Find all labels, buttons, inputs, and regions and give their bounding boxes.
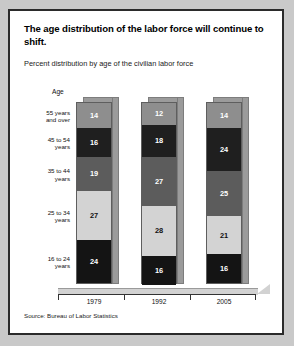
bar-column[interactable]: 1218272816 <box>141 97 184 284</box>
x-axis-tick <box>255 294 256 300</box>
bar-segment[interactable]: 16 <box>77 128 111 157</box>
bar-segment[interactable]: 21 <box>207 216 241 254</box>
title-block: The age distribution of the labor force … <box>24 23 266 69</box>
bar-stack: 1416192724 <box>76 102 112 284</box>
chart-subtitle: Percent distribution by age of the civil… <box>24 59 266 69</box>
age-category-label: 45 to 54years <box>18 136 70 151</box>
bar-segment[interactable]: 27 <box>77 191 111 240</box>
bar-segment[interactable]: 18 <box>142 125 176 157</box>
bar-segment-value: 16 <box>220 265 228 272</box>
age-category-label-line1: 45 to 54 <box>18 136 70 144</box>
age-category-label: 25 to 34years <box>18 209 70 224</box>
bar-3d-side-face <box>112 97 119 284</box>
bar-segment-value: 28 <box>155 227 163 234</box>
bar-segment-value: 24 <box>220 146 228 153</box>
age-category-label-line2: years <box>18 262 70 270</box>
bar-segment-value: 24 <box>90 258 98 265</box>
age-category-label-line2: years <box>18 216 70 224</box>
bar-segment[interactable]: 16 <box>207 254 241 283</box>
bar-segment-value: 12 <box>155 110 163 117</box>
x-axis-tick <box>124 294 125 300</box>
x-axis-line <box>58 294 256 295</box>
bar-segment[interactable]: 27 <box>142 157 176 206</box>
bar-segment[interactable]: 28 <box>142 206 176 256</box>
age-category-label-line1: 35 to 44 <box>18 167 70 175</box>
bar-segment[interactable]: 14 <box>77 103 111 128</box>
x-axis-tick-label: 1979 <box>64 298 124 305</box>
age-category-label: 55 yearsand over <box>18 109 70 124</box>
age-category-label-line1: 16 to 24 <box>18 255 70 263</box>
x-axis-tick <box>190 294 191 300</box>
bar-segment-value: 19 <box>90 170 98 177</box>
bar-segment-value: 16 <box>90 139 98 146</box>
bar-segment[interactable]: 25 <box>207 171 241 216</box>
bar-segment-value: 18 <box>155 137 163 144</box>
figure-frame: The age distribution of the labor force … <box>8 9 284 335</box>
bar-stack: 1218272816 <box>141 102 177 284</box>
bar-column[interactable]: 1424252116 <box>206 97 249 284</box>
age-category-label: 16 to 24years <box>18 255 70 270</box>
bar-stack: 1424252116 <box>206 102 242 284</box>
bar-segment-value: 25 <box>220 190 228 197</box>
chart-floor-wedge <box>257 284 270 294</box>
bar-column[interactable]: 1416192724 <box>76 97 119 284</box>
source-note: Source: Bureau of Labor Statistics <box>24 312 118 319</box>
x-axis-tick-label: 2005 <box>194 298 254 305</box>
page-title: The age distribution of the labor force … <box>24 23 266 48</box>
bar-segment[interactable]: 14 <box>207 103 241 128</box>
bar-segment[interactable]: 24 <box>77 240 111 283</box>
bar-segment-value: 27 <box>155 178 163 185</box>
age-axis-header: Age <box>52 88 64 95</box>
bar-segment[interactable]: 16 <box>142 256 176 285</box>
age-category-label-line2: and over <box>18 116 70 124</box>
age-category-label-line1: 55 years <box>18 109 70 117</box>
bar-segment-value: 14 <box>90 112 98 119</box>
x-axis-tick <box>58 294 59 300</box>
bar-segment[interactable]: 19 <box>77 157 111 191</box>
bar-segment-value: 16 <box>155 267 163 274</box>
bar-segment-value: 14 <box>220 112 228 119</box>
bar-segment[interactable]: 12 <box>142 103 176 125</box>
chart-plot-area: Age 55 yearsand over45 to 54years35 to 4… <box>10 85 282 313</box>
bar-segment-value: 21 <box>220 232 228 239</box>
bar-segment[interactable]: 24 <box>207 128 241 171</box>
bar-3d-side-face <box>177 97 184 284</box>
x-axis-tick-label: 1992 <box>129 298 189 305</box>
age-category-label-line2: years <box>18 175 70 183</box>
age-category-label-line2: years <box>18 143 70 151</box>
age-category-label: 35 to 44years <box>18 167 70 182</box>
age-category-label-line1: 25 to 34 <box>18 209 70 217</box>
bar-segment-value: 27 <box>90 212 98 219</box>
bar-3d-side-face <box>242 97 249 284</box>
